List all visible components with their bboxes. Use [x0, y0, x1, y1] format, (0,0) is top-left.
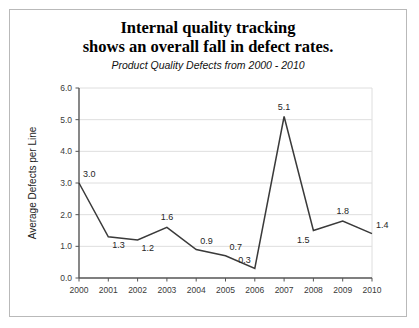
- y-tick-label: 0.0: [60, 273, 72, 283]
- x-tick-label: 2002: [128, 285, 147, 295]
- data-point-label: 1.6: [161, 212, 174, 222]
- y-axis-title-text: Average Defects per Line: [27, 126, 38, 239]
- x-tick-label: 2007: [275, 285, 294, 295]
- data-point-label: 1.3: [112, 240, 125, 250]
- y-tick-label: 4.0: [60, 146, 72, 156]
- y-tick-labels: 0.01.02.03.04.05.06.0: [60, 83, 72, 283]
- data-point-label: 1.2: [142, 243, 155, 253]
- y-tick-label: 3.0: [60, 178, 72, 188]
- data-point-label: 0.7: [230, 242, 243, 252]
- data-point-label: 3.0: [83, 169, 96, 179]
- data-point-label: 5.1: [278, 102, 291, 112]
- x-tick-label: 2010: [363, 285, 382, 295]
- x-tick-label: 2001: [99, 285, 118, 295]
- data-point-label: 1.8: [336, 206, 349, 216]
- x-tick-label: 2003: [157, 285, 176, 295]
- data-point-label: 1.4: [376, 220, 389, 230]
- y-tick-label: 2.0: [60, 210, 72, 220]
- y-axis: [76, 88, 80, 278]
- y-axis-title: Average Defects per Line: [27, 126, 38, 239]
- x-tick-label: 2009: [333, 285, 352, 295]
- x-tick-label: 2000: [70, 285, 89, 295]
- x-axis: [79, 278, 372, 282]
- y-tick-label: 6.0: [60, 83, 72, 93]
- x-tick-labels: 2000200120022003200420052006200720082009…: [70, 285, 382, 295]
- data-point-label: 1.5: [297, 235, 310, 245]
- x-tick-label: 2005: [216, 285, 235, 295]
- chart-figure: Internal quality tracking shows an overa…: [9, 9, 407, 317]
- gridlines-group: [79, 88, 372, 246]
- x-tick-label: 2004: [187, 285, 206, 295]
- x-tick-label: 2008: [304, 285, 323, 295]
- y-tick-label: 5.0: [60, 115, 72, 125]
- line-chart-plot: 0.01.02.03.04.05.06.0 200020012002200320…: [10, 10, 408, 318]
- y-tick-label: 1.0: [60, 241, 72, 251]
- data-point-label: 0.9: [200, 236, 213, 246]
- x-tick-label: 2006: [245, 285, 264, 295]
- data-point-label: 0.3: [238, 255, 251, 265]
